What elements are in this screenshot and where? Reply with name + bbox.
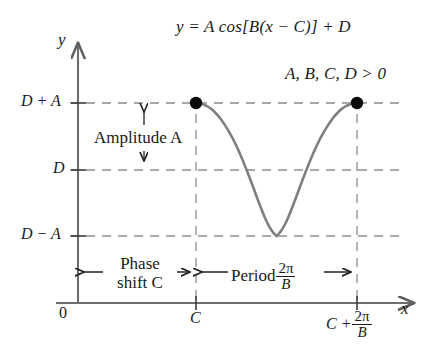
amplitude-annotation: Amplitude A [94,129,182,147]
y-tick-label-d-plus-a: D + A [21,93,61,110]
horizontal-guide-lines [70,103,400,236]
parameter-condition: A, B, C, D > 0 [285,65,386,83]
phase-shift-annotation: Phase shift C [105,254,175,292]
period-annotation: Period2πB [231,261,296,292]
period-fraction-xtick-numerator: 2π [352,309,371,325]
period-fraction-numerator: 2π [276,261,295,277]
max-point-left-marker [190,97,202,109]
x-tick-label-c: C [190,310,201,327]
y-tick-label-d-minus-a: D − A [21,226,61,243]
period-annotation-text: Period [231,266,275,285]
max-point-right-marker [351,97,363,109]
y-tick-label-d: D [53,160,65,177]
phase-shift-line-2: shift C [117,273,163,292]
x-tick-label-c-plus-period: C +2πB [326,309,373,340]
period-fraction-xtick-denominator: B [352,325,371,340]
trigonometric-cosine-diagram: y = A cos[B(x − C)] + D A, B, C, D > 0 y… [0,0,437,356]
x-tick-c-plus-prefix: C + [326,315,351,332]
y-axis-label: y [58,31,66,49]
diagram-canvas [0,0,437,356]
period-fraction-xtick: 2πB [352,309,371,340]
period-fraction: 2πB [276,261,295,292]
phase-shift-line-1: Phase [120,254,160,273]
period-fraction-denominator: B [276,277,295,292]
x-axis-label: x [401,300,409,318]
origin-label: 0 [59,305,67,322]
equation-title: y = A cos[B(x − C)] + D [176,18,351,36]
